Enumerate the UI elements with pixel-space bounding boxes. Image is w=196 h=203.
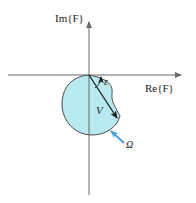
shaded-region [62,75,120,135]
real-axis-label: Re{F} [145,82,174,94]
complex-plane-diagram: Im{F} Re{F} ε V Ω [0,0,196,203]
omega-label: Ω [126,139,133,150]
omega-direction-arrow [111,131,124,143]
imaginary-axis-label: Im{F} [55,12,84,24]
epsilon-label: ε [104,76,108,87]
figure-container: Im{F} Re{F} ε V Ω [0,0,196,203]
